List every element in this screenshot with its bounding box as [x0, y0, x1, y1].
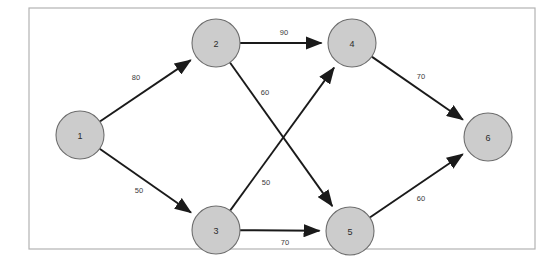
node-label-2: 2	[213, 39, 218, 49]
edges-layer	[100, 43, 463, 231]
node-label-5: 5	[347, 227, 352, 237]
edge-weight-4-6: 70	[417, 72, 425, 81]
edge-weight-3-4: 50	[262, 178, 270, 187]
graph-node-3: 3	[192, 206, 240, 254]
graph-node-2: 2	[192, 19, 240, 67]
graph-node-5: 5	[326, 207, 374, 255]
graph-figure: 8050906050707060 123456	[0, 0, 558, 258]
edge-weight-1-2: 80	[132, 73, 140, 82]
edge-weight-1-3: 50	[135, 186, 143, 195]
graph-edge-2-to-5	[230, 63, 332, 207]
node-label-1: 1	[77, 131, 82, 141]
graph-node-6: 6	[464, 113, 512, 161]
edge-weight-5-6: 60	[417, 194, 425, 203]
node-label-6: 6	[485, 133, 490, 143]
figure-border	[29, 8, 535, 249]
edge-weight-2-5: 60	[261, 88, 269, 97]
graph-edge-1-to-2	[100, 60, 191, 121]
graph-canvas: 8050906050707060 123456	[0, 0, 558, 258]
graph-edge-3-to-5	[240, 230, 320, 231]
graph-node-1: 1	[56, 111, 104, 159]
edge-weight-2-4: 90	[280, 28, 288, 37]
graph-edge-3-to-4	[230, 68, 334, 211]
edge-weights-layer: 8050906050707060	[132, 28, 425, 247]
graph-edge-5-to-6	[370, 154, 463, 217]
graph-edge-1-to-3	[100, 149, 191, 213]
graph-edge-4-to-6	[372, 57, 463, 120]
graph-node-4: 4	[328, 19, 376, 67]
node-label-3: 3	[213, 226, 218, 236]
node-label-4: 4	[349, 39, 354, 49]
edge-weight-3-5: 70	[281, 238, 289, 247]
